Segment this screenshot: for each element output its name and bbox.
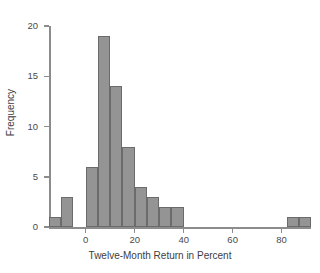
y-tick-label-5: 5 bbox=[4, 172, 38, 182]
histogram-bar bbox=[110, 86, 122, 227]
histogram-figure: 05101520 020406080 Twelve-Month Return i… bbox=[0, 0, 320, 273]
histogram-bar bbox=[147, 197, 159, 227]
histogram-bar bbox=[86, 167, 98, 227]
x-tick-label-80: 80 bbox=[267, 235, 297, 245]
y-tick-label-20: 20 bbox=[4, 21, 38, 31]
x-axis-spine bbox=[49, 227, 311, 229]
x-tick-label-40: 40 bbox=[169, 235, 199, 245]
x-tick-80 bbox=[281, 228, 283, 233]
x-tick-60 bbox=[232, 228, 234, 233]
y-tick-label-0: 0 bbox=[4, 222, 38, 232]
x-tick-label-20: 20 bbox=[120, 235, 150, 245]
x-axis-title: Twelve-Month Return in Percent bbox=[0, 250, 320, 261]
histogram-bar bbox=[299, 217, 311, 227]
y-axis-title: Frequency bbox=[5, 70, 16, 156]
x-tick-40 bbox=[183, 228, 185, 233]
histogram-bar bbox=[171, 207, 183, 227]
histogram-bar bbox=[49, 217, 61, 227]
histogram-bar bbox=[61, 197, 73, 227]
histogram-bar bbox=[122, 147, 134, 227]
x-tick-label-60: 60 bbox=[218, 235, 248, 245]
histogram-bar bbox=[287, 217, 299, 227]
histogram-bar bbox=[159, 207, 171, 227]
x-tick-20 bbox=[134, 228, 136, 233]
histogram-bar bbox=[98, 36, 110, 227]
histogram-bar bbox=[135, 187, 147, 227]
plot-area bbox=[49, 26, 311, 227]
x-tick-label-0: 0 bbox=[71, 235, 101, 245]
x-tick-0 bbox=[85, 228, 87, 233]
